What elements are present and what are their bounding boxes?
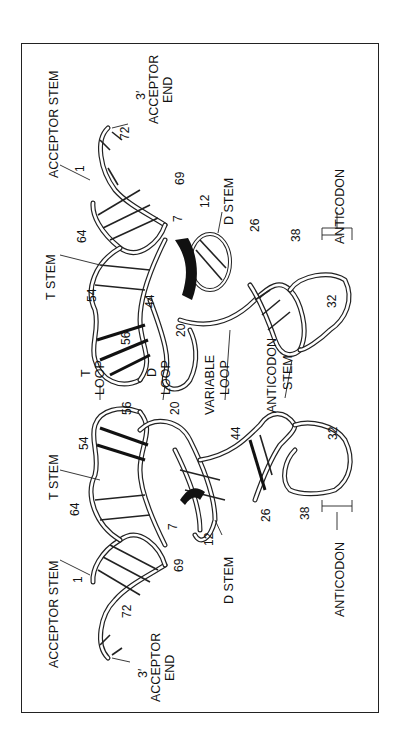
label-d-stem: D STEM <box>222 557 236 604</box>
num-44: 44 <box>229 426 243 440</box>
label-t-loop-2: LOOP <box>93 360 107 395</box>
label-acceptor-end-1: ACCEPTOR <box>147 55 161 124</box>
label-acceptor-end-2: END <box>163 655 177 681</box>
label-acceptor-stem: ACCEPTOR STEM <box>47 561 61 668</box>
num-20: 20 <box>174 323 188 337</box>
num-64: 64 <box>75 229 89 243</box>
num-56: 56 <box>120 401 134 415</box>
num-56: 56 <box>119 331 133 345</box>
label-t-stem: T STEM <box>47 454 61 500</box>
lower-labels: ACCEPTOR STEM 3′ ACCEPTOR END T STEM D S… <box>47 401 347 702</box>
num-54: 54 <box>85 288 99 302</box>
trna-stereo-diagram: ACCEPTOR STEM 3′ ACCEPTOR END D STEM ANT… <box>0 0 402 751</box>
label-d-stem: D STEM <box>222 178 236 225</box>
label-anticodon-stem-2: STEM <box>281 355 295 390</box>
num-12: 12 <box>198 194 212 208</box>
label-3-prime: 3′ <box>136 668 150 678</box>
lower-trna-structure <box>91 409 350 658</box>
label-anticodon: ANTICODON <box>333 542 347 617</box>
num-26: 26 <box>248 218 262 232</box>
label-t-stem: T STEM <box>44 254 58 300</box>
label-acceptor-stem: ACCEPTOR STEM <box>47 71 61 178</box>
num-72: 72 <box>120 604 134 618</box>
label-anticodon: ANTICODON <box>333 169 347 244</box>
label-variable-loop-2: LOOP <box>218 360 232 395</box>
label-d-loop-2: LOOP <box>159 360 173 395</box>
num-26: 26 <box>259 508 273 522</box>
num-38: 38 <box>298 506 312 520</box>
num-32: 32 <box>326 426 340 440</box>
num-54: 54 <box>77 436 91 450</box>
label-variable-loop-1: VARIABLE <box>203 355 217 415</box>
label-d-loop-1: D <box>145 368 159 377</box>
num-44: 44 <box>143 294 157 308</box>
label-anticodon-stem-1: ANTICODON <box>265 338 279 413</box>
num-72: 72 <box>118 126 132 140</box>
num-12: 12 <box>202 532 216 546</box>
num-38: 38 <box>289 228 303 242</box>
num-69: 69 <box>172 558 186 572</box>
num-32: 32 <box>325 294 339 308</box>
label-t-loop-1: T <box>79 369 93 377</box>
num-7: 7 <box>166 523 180 530</box>
label-acceptor-end-1: ACCEPTOR <box>149 633 163 702</box>
num-20: 20 <box>168 401 182 415</box>
label-acceptor-end-2: END <box>161 77 175 103</box>
label-3-prime: 3′ <box>134 90 148 100</box>
upper-trna-structure <box>91 128 349 389</box>
num-69: 69 <box>173 171 187 185</box>
num-64: 64 <box>68 502 82 516</box>
num-1: 1 <box>73 165 87 172</box>
num-7: 7 <box>171 215 185 222</box>
num-1: 1 <box>71 576 85 583</box>
